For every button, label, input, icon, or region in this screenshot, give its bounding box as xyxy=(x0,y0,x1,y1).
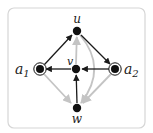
edge-v-to-u xyxy=(76,37,77,64)
label-v: v xyxy=(67,55,74,68)
graph-diagram: u v w a1 a2 xyxy=(0,0,153,133)
node-a1 xyxy=(34,63,46,75)
edge-w-to-v xyxy=(76,75,77,103)
label-a2-sub: 2 xyxy=(131,68,138,79)
label-u: u xyxy=(73,12,81,26)
node-a2 xyxy=(109,63,121,75)
label-a1-base: a xyxy=(15,61,23,77)
node-w xyxy=(73,104,81,112)
node-u xyxy=(73,27,81,35)
label-a1-sub: 1 xyxy=(23,68,29,79)
label-w: w xyxy=(72,112,83,126)
label-a2-base: a xyxy=(124,61,132,77)
